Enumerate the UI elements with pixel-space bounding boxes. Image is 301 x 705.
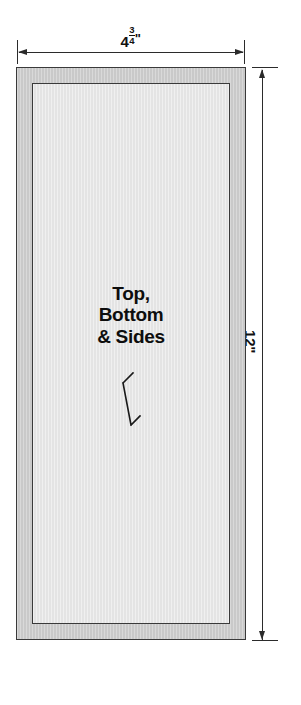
width-fraction-numerator: 3 (129, 25, 135, 36)
height-arrow-down-icon (259, 631, 265, 640)
width-arrow-right-icon (235, 49, 244, 55)
height-arrow-up-icon (259, 69, 265, 78)
height-extension-tick-bottom (252, 640, 278, 641)
width-fraction: 34 (129, 25, 135, 45)
dimension-drawing-canvas: 434" 12" Top, Bottom & Sides (0, 0, 301, 705)
width-arrow-left-icon (18, 49, 27, 55)
panel-caption: Top, Bottom & Sides (17, 283, 245, 347)
width-whole-number: 4 (121, 33, 129, 50)
width-inch-mark: " (135, 31, 141, 46)
caption-line-1: Top, (17, 283, 245, 304)
width-fraction-denominator: 4 (129, 36, 135, 46)
panel-inner-face (32, 83, 230, 624)
caption-line-2: Bottom (17, 304, 245, 325)
caption-line-3: & Sides (17, 326, 245, 347)
width-extension-tick-right (244, 40, 245, 64)
width-dimension-line (19, 52, 243, 53)
height-extension-tick-top (252, 67, 278, 68)
zigzag-leader-arrow-icon (117, 369, 145, 431)
panel-outer-edge: Top, Bottom & Sides (16, 67, 246, 640)
width-dimension-label: 434" (0, 26, 261, 49)
height-dimension-line (262, 70, 263, 640)
